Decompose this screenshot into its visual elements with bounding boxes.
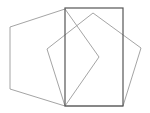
right-pentagon: [47, 13, 141, 106]
rectangle: [65, 8, 123, 106]
left-pentagon: [10, 9, 99, 106]
geometry-diagram: [0, 0, 150, 113]
